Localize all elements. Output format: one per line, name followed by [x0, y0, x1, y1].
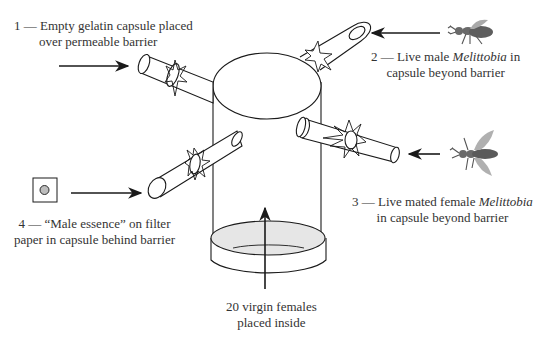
label-chamber: 20 virgin females placed inside: [226, 299, 317, 331]
label-chamber-line1: 20 virgin females: [226, 299, 317, 315]
male-wasp-icon: [448, 20, 493, 44]
female-wasp-icon: [450, 130, 498, 176]
label-text: 2 — Live male: [371, 49, 453, 64]
label-capsule-4-line1: 4 — “Male essence” on filter: [14, 216, 175, 232]
label-capsule-3: 3 — Live mated female Melittobia in caps…: [352, 194, 533, 226]
label-text: 3 — Live mated female: [352, 194, 479, 209]
capsule-3: [295, 116, 401, 163]
filter-paper-icon: [33, 178, 57, 202]
label-capsule-3-line2: in capsule beyond barrier: [352, 210, 533, 226]
label-text: in: [507, 49, 520, 64]
label-capsule-1-line1: 1 — Empty gelatin capsule placed: [14, 18, 193, 34]
cylinder-top-opening: [213, 53, 321, 119]
capsule-1: [136, 53, 213, 103]
label-chamber-line2: placed inside: [226, 315, 317, 331]
label-capsule-2-line1: 2 — Live male Melittobia in: [371, 49, 520, 65]
label-capsule-4: 4 — “Male essence” on filter paper in ca…: [14, 216, 175, 248]
capsule-4: [145, 130, 245, 201]
petri-dish: [211, 221, 326, 273]
species-name: Melittobia: [479, 194, 533, 209]
label-capsule-2: 2 — Live male Melittobia in capsule beyo…: [371, 49, 520, 81]
label-capsule-3-line1: 3 — Live mated female Melittobia: [352, 194, 533, 210]
barrier-3: [345, 131, 357, 149]
species-name: Melittobia: [453, 49, 507, 64]
label-capsule-1-line2: over permeable barrier: [14, 34, 193, 50]
label-capsule-2-line2: capsule beyond barrier: [371, 65, 520, 81]
label-capsule-1: 1 — Empty gelatin capsule placed over pe…: [14, 18, 193, 50]
capsule-2: [300, 22, 371, 72]
label-capsule-4-line2: paper in capsule behind barrier: [14, 232, 175, 248]
